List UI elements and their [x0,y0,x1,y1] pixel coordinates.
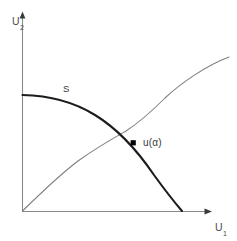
y-axis-label: U2 [12,15,24,27]
feasible-set-boundary-curve [23,95,183,211]
y-axis-label-subscript: 2 [20,24,24,31]
solution-point-marker [131,140,136,145]
x-axis-label-text: U [215,221,223,233]
plot-canvas [0,0,237,241]
x-axis-label-subscript: 1 [223,230,227,237]
solution-point-label: u(α) [143,137,162,148]
x-axis-arrowhead [205,209,213,215]
feasible-set-label: S [63,83,69,94]
utility-set-figure: U2 U1 S u(α) [0,0,237,241]
y-axis-label-text: U [12,15,20,27]
x-axis-label: U1 [215,221,227,233]
utility-path-curve [23,57,230,211]
